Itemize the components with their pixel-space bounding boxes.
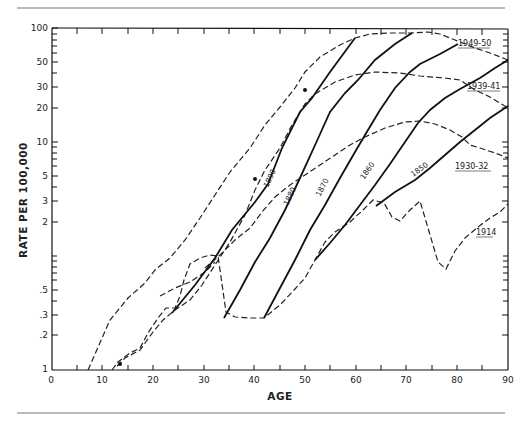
x-tick-10: 10 [96,375,108,385]
y-tick-labels: 100 50 30 20 10 5 3 2 .5 .3 .2 1 [31,23,48,374]
data-point-marker [303,88,307,92]
y-tick-2: 2 [42,217,48,227]
label-1890: 1890 [262,168,278,189]
series-1870 [264,44,458,318]
y-tick-10: 10 [37,137,49,147]
label-1939-41: 1939-41 [467,82,500,91]
data-point-marker [253,177,257,181]
x-tick-70: 70 [400,375,412,385]
series-1949-50 [88,32,508,370]
x-tick-90: 90 [502,375,514,385]
label-1870: 1870 [314,177,331,198]
y-tick-5: 5 [42,171,48,181]
x-tick-80: 80 [451,375,463,385]
label-1930-32: 1930-32 [455,162,488,171]
x-tick-30: 30 [198,375,210,385]
y-tick-50: 50 [37,57,49,67]
series-1880 [224,33,412,318]
y-tick-30: 30 [37,82,49,92]
y-tick-3: 3 [42,196,48,206]
x-tick-50: 50 [299,375,311,385]
cohort-lines [172,33,508,318]
period-curves [88,32,508,370]
series-1890 [172,38,355,313]
data-point-marker [118,362,122,366]
y-tick-100: 100 [31,23,48,33]
label-1860: 1860 [358,160,376,181]
x-tick-60: 60 [350,375,362,385]
y-axis-title: RATE PER 100,000 [17,142,29,258]
series-1930-32 [205,121,508,268]
x-axis-title: AGE [267,390,292,402]
label-1880: 1880 [282,186,298,207]
x-axis-ticks [77,28,482,370]
x-tick-40: 40 [248,375,260,385]
plot-frame [52,28,508,370]
y-tick-0-3: .3 [39,310,48,320]
y-tick-20: 20 [37,103,49,113]
chart-canvas: 100 50 30 20 10 5 3 2 .5 .3 .2 1 0 10 20… [0,0,529,422]
x-tick-labels: 0 10 20 30 40 50 60 70 80 90 [48,375,514,385]
label-1914: 1914 [476,228,496,237]
series-1939-41 [117,72,508,366]
label-1949-50: 1949-50 [458,39,491,48]
y-tick-0-2: .2 [39,330,48,340]
series-1914 [112,200,508,370]
y-tick-0-5: .5 [39,285,48,295]
y-tick-0-1: 1 [42,364,48,374]
x-tick-0: 0 [48,375,54,385]
x-tick-20: 20 [147,375,159,385]
